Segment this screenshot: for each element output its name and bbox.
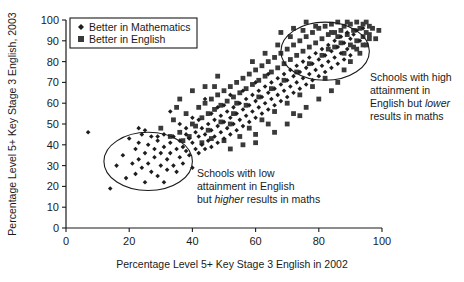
data-point-english: [209, 97, 214, 102]
data-point-english: [291, 43, 296, 48]
data-point-mathematics: [228, 115, 233, 120]
data-point-mathematics: [209, 145, 214, 150]
data-point-english: [357, 51, 362, 56]
data-point-english: [247, 126, 252, 131]
x-tick-label: 80: [313, 235, 325, 247]
data-point-english: [272, 109, 277, 114]
data-point-english: [225, 99, 230, 104]
data-point-mathematics: [263, 84, 268, 89]
data-point-english: [275, 65, 280, 70]
data-point-mathematics: [269, 80, 274, 85]
data-point-english: [234, 80, 239, 85]
annotation-line: attainment in English: [197, 180, 295, 192]
y-tick-label: 90: [47, 35, 59, 47]
data-point-mathematics: [168, 109, 173, 114]
data-point-english: [253, 140, 258, 145]
data-point-english: [263, 51, 268, 56]
annotation-low-english-higher-maths: Schools with low attainment in English b…: [197, 167, 320, 205]
annotation-high-english-lower-maths: Schools with high attainment in English …: [370, 71, 452, 122]
data-point-mathematics: [86, 130, 91, 135]
data-point-english: [348, 59, 353, 64]
data-point-mathematics: [320, 47, 325, 52]
data-point-mathematics: [244, 97, 249, 102]
data-point-english: [310, 30, 315, 35]
data-point-mathematics: [219, 113, 224, 118]
data-point-mathematics: [241, 124, 246, 129]
y-tick-label: 30: [47, 160, 59, 172]
data-point-mathematics: [329, 66, 334, 71]
data-point-mathematics: [190, 115, 195, 120]
data-point-mathematics: [159, 151, 164, 156]
data-point-english: [291, 111, 296, 116]
data-point-mathematics: [155, 134, 160, 139]
data-point-english: [323, 24, 328, 29]
data-point-english: [376, 28, 381, 33]
data-point-english: [294, 53, 299, 58]
data-point-mathematics: [121, 153, 126, 158]
data-point-mathematics: [275, 76, 280, 81]
data-point-mathematics: [326, 43, 331, 48]
y-tick-label: 100: [41, 14, 59, 26]
data-point-mathematics: [193, 147, 198, 152]
data-point-mathematics: [203, 147, 208, 152]
data-point-mathematics: [193, 130, 198, 135]
data-point-mathematics: [272, 103, 277, 108]
data-point-mathematics: [171, 163, 176, 168]
data-point-mathematics: [174, 147, 179, 152]
data-point-mathematics: [149, 170, 154, 175]
data-point-mathematics: [304, 66, 309, 71]
data-point-mathematics: [136, 126, 141, 131]
data-point-mathematics: [238, 118, 243, 123]
data-point-english: [177, 97, 182, 102]
data-point-mathematics: [225, 109, 230, 114]
data-point-english: [301, 28, 306, 33]
data-point-mathematics: [143, 151, 148, 156]
data-point-mathematics: [323, 70, 328, 75]
y-tick-label: 0: [53, 222, 59, 234]
data-point-english: [370, 26, 375, 31]
data-point-english: [177, 130, 182, 135]
data-point-english: [174, 105, 179, 110]
data-point-mathematics: [203, 132, 208, 137]
data-point-mathematics: [177, 122, 182, 127]
data-point-english: [329, 30, 334, 35]
data-point-mathematics: [162, 180, 167, 185]
data-point-mathematics: [174, 170, 179, 175]
data-point-english: [241, 76, 246, 81]
data-point-mathematics: [228, 132, 233, 137]
data-point-mathematics: [253, 115, 258, 120]
data-point-english: [320, 36, 325, 41]
data-point-mathematics: [190, 140, 195, 145]
data-point-english: [228, 147, 233, 152]
data-point-english: [304, 105, 309, 110]
data-point-mathematics: [288, 84, 293, 89]
data-point-mathematics: [168, 140, 173, 145]
data-point-mathematics: [307, 72, 312, 77]
data-point-english: [237, 134, 242, 139]
data-point-mathematics: [320, 63, 325, 68]
y-axis-ticks: 0102030405060708090100: [41, 14, 66, 234]
data-point-english: [297, 113, 302, 118]
data-point-english: [222, 88, 227, 93]
data-point-english: [158, 126, 163, 131]
data-point-english: [345, 20, 350, 25]
data-point-english: [278, 30, 283, 35]
annotation-line: results in maths: [370, 110, 444, 122]
data-point-english: [266, 59, 271, 64]
data-point-mathematics: [279, 99, 284, 104]
x-axis-title: Percentage Level 5+ Key Stage 3 English …: [116, 258, 348, 270]
data-point-english: [253, 132, 258, 137]
data-point-mathematics: [247, 120, 252, 125]
data-point-mathematics: [345, 47, 350, 52]
data-point-mathematics: [215, 124, 220, 129]
data-point-mathematics: [231, 105, 236, 110]
data-point-mathematics: [269, 97, 274, 102]
data-point-mathematics: [114, 163, 119, 168]
data-point-mathematics: [108, 186, 113, 191]
data-point-mathematics: [155, 174, 160, 179]
x-tick-label: 40: [186, 235, 198, 247]
data-point-english: [329, 88, 334, 93]
data-point-mathematics: [263, 101, 268, 106]
data-point-mathematics: [342, 57, 347, 62]
annotation-line: English but lower: [370, 97, 450, 109]
